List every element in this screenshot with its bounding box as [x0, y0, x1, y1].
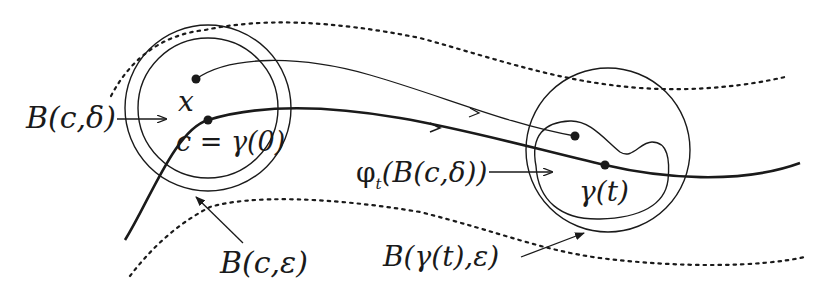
- ball-eps-pointer: [196, 197, 243, 243]
- ball-delta-circle: [138, 38, 278, 178]
- label-ball-delta: B(c,δ): [26, 103, 116, 133]
- point-flow-x-dot: [571, 132, 580, 141]
- flow-diagram: B(c,δ) x c = γ(0) B(c,ε) φt(B(c,δ)) γ(t)…: [0, 0, 833, 299]
- label-point-x: x: [178, 88, 194, 116]
- label-ball-gamma-eps: B(γ(t),ε): [383, 243, 499, 271]
- point-x-dot: [192, 75, 201, 84]
- point-c-dot: [204, 116, 213, 125]
- label-ball-eps: B(c,ε): [220, 248, 308, 278]
- label-flow-phi: φ: [356, 156, 376, 189]
- flow-line-x: [196, 60, 575, 136]
- label-center-c: c = γ(0): [176, 128, 285, 155]
- label-flow-image: φt(B(c,δ)): [356, 159, 487, 192]
- label-gamma-t: γ(t): [579, 178, 629, 206]
- ball-gamma-eps-pointer: [521, 233, 584, 257]
- label-flow-arg: (B(c,δ)): [382, 156, 488, 189]
- upper-dotted-boundary: [111, 22, 785, 96]
- point-gamma-t-dot: [601, 161, 610, 170]
